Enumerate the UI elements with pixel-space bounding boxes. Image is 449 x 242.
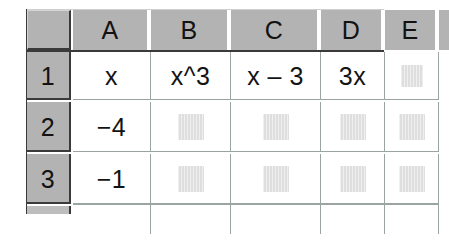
gridline-b-c-tail xyxy=(230,204,231,234)
cell-b2-redacted-content xyxy=(178,114,204,140)
cell-e2[interactable] xyxy=(385,102,439,152)
gridline-d-e-tail xyxy=(384,204,385,234)
cell-d3-redacted-content xyxy=(340,166,366,192)
cell-d1[interactable]: 3x xyxy=(321,52,385,100)
cell-c2[interactable] xyxy=(231,102,321,152)
gridline-c-d-tail xyxy=(320,204,321,234)
cell-b1-text: x^3 xyxy=(151,52,230,100)
cell-d2[interactable] xyxy=(321,102,385,152)
cell-e1-redacted-content xyxy=(401,65,423,87)
cell-d2-redacted-content xyxy=(340,114,366,140)
column-header-e[interactable]: E xyxy=(385,10,437,50)
cell-e1[interactable] xyxy=(385,52,439,100)
cell-a2-text: −4 xyxy=(73,102,150,152)
cell-a1-text: x xyxy=(73,52,150,100)
gridline-e-f-tail xyxy=(438,204,439,234)
column-header-a[interactable]: A xyxy=(73,10,149,50)
row-header-2[interactable]: 2 xyxy=(27,102,71,152)
cell-c1[interactable]: x – 3 xyxy=(231,52,321,100)
cell-c2-redacted-content xyxy=(263,114,289,140)
cell-b2[interactable] xyxy=(151,102,231,152)
cell-d3[interactable] xyxy=(321,154,385,204)
cell-b3[interactable] xyxy=(151,154,231,204)
cell-a3[interactable]: −1 xyxy=(73,154,151,204)
cell-e3-redacted-content xyxy=(399,166,425,192)
cell-a2[interactable]: −4 xyxy=(73,102,151,152)
cell-a3-text: −1 xyxy=(73,154,150,204)
cell-e3[interactable] xyxy=(385,154,439,204)
select-all-corner-box[interactable] xyxy=(27,10,71,50)
cell-e2-redacted-content xyxy=(399,114,425,140)
cell-c3[interactable] xyxy=(231,154,321,204)
cell-c1-text: x – 3 xyxy=(231,52,320,100)
cell-b3-redacted-content xyxy=(178,166,204,192)
column-header-f-partial[interactable] xyxy=(439,10,449,50)
cell-a1[interactable]: x xyxy=(73,52,151,100)
row-header-3[interactable]: 3 xyxy=(27,154,71,204)
column-header-b[interactable]: B xyxy=(151,10,229,50)
cell-d1-text: 3x xyxy=(321,52,384,100)
gridline-a-b-tail xyxy=(150,204,151,234)
cell-c3-redacted-content xyxy=(263,166,289,192)
row-header-1[interactable]: 1 xyxy=(27,52,71,100)
cell-b1[interactable]: x^3 xyxy=(151,52,231,100)
column-header-d[interactable]: D xyxy=(321,10,383,50)
spreadsheet-grid[interactable]: A B C D E 1 2 3 x x^3 x – 3 3x xyxy=(26,9,384,231)
row-header-4-partial[interactable] xyxy=(27,206,71,214)
column-header-c[interactable]: C xyxy=(231,10,319,50)
